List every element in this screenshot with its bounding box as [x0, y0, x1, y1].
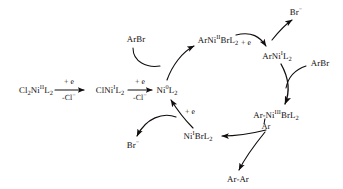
- arrow-label-step1-below: -Cl−: [62, 94, 76, 102]
- arrow-bromide-loss-top: [272, 20, 292, 40]
- byproduct-bromide-top: Br−: [290, 8, 303, 17]
- species-precatalyst: Cl2NiIIL2: [19, 86, 53, 95]
- reagent-aryl-bromide-top: ArBr: [127, 35, 145, 44]
- species-nickel-zero: Ni0L2: [157, 86, 178, 95]
- product-biaryl: Ar-Ar: [227, 175, 249, 184]
- arrow-label-step2-below: -Cl−: [133, 94, 147, 102]
- species-aryl-nickel-one: ArNiIL2: [262, 52, 291, 61]
- arrow-label-reduction-top: + e: [241, 39, 251, 47]
- reagent-aryl-bromide-right: ArBr: [311, 59, 329, 68]
- arrow-arbr-top-entry: [133, 48, 160, 66]
- ar-branch-bond: [258, 118, 272, 130]
- arrow-biaryl-release: [239, 132, 265, 170]
- arrow-reductive-elimination: [222, 130, 266, 136]
- arrow-bromide-loss-bottom: [137, 115, 176, 136]
- arrow-label-step1-above: + e: [64, 78, 74, 86]
- species-aryl-nickel-two-bromide: ArNiIIBrL2: [198, 36, 239, 45]
- arrow-label-step2-above: + e: [135, 78, 145, 86]
- arrow-oxidative-addition: [167, 46, 194, 80]
- arrow-arbr-right-entry: [286, 66, 306, 88]
- species-chloro-nickel-one: ClNiIL2: [96, 86, 124, 95]
- species-nickel-one-bromide: NiIBrL2: [184, 132, 213, 141]
- byproduct-bromide-bottom: Br−: [127, 141, 140, 150]
- arrow-label-reduction-bottom: + e: [185, 108, 195, 116]
- reaction-scheme-diagram: Cl2NiIIL2 ClNiIL2 Ni0L2 ArNiIIBrL2 ArNiI…: [0, 0, 343, 189]
